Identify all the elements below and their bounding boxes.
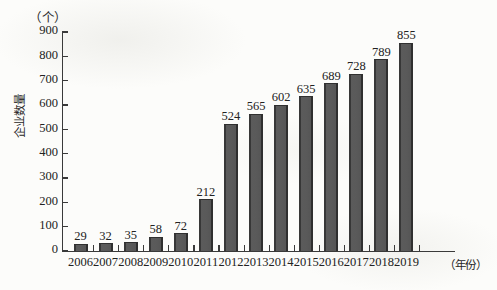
y-tick-300: 300 bbox=[63, 177, 68, 178]
bar-2009: 58 bbox=[149, 237, 163, 251]
x-tick-6 bbox=[218, 245, 219, 251]
bar-2016: 689 bbox=[324, 83, 338, 251]
x-tick-9 bbox=[294, 245, 295, 251]
x-label-2017: 2017 bbox=[344, 256, 369, 269]
bar-value-2014: 602 bbox=[272, 91, 291, 104]
bar-value-2008: 35 bbox=[124, 229, 137, 242]
y-tick-700: 700 bbox=[63, 80, 68, 81]
bar-2014: 602 bbox=[274, 105, 288, 251]
y-axis-title: 企业数量 bbox=[11, 80, 27, 152]
bar-value-2011: 212 bbox=[197, 186, 216, 199]
x-tick-1 bbox=[93, 245, 94, 251]
y-tick-label-600: 600 bbox=[28, 96, 58, 111]
x-tick-2 bbox=[118, 245, 119, 251]
x-label-2012: 2012 bbox=[218, 256, 243, 269]
y-tick-800: 800 bbox=[63, 56, 68, 57]
y-tick-900: 900 bbox=[63, 31, 68, 32]
bar-2007: 32 bbox=[99, 243, 113, 251]
y-tick-500: 500 bbox=[63, 129, 68, 130]
bar-value-2007: 32 bbox=[99, 230, 112, 243]
bar-2018: 789 bbox=[374, 59, 388, 251]
chart-page: （个） 企业数量 9008007006005004003002001000 29… bbox=[0, 0, 497, 290]
x-label-2019: 2019 bbox=[394, 256, 419, 269]
y-tick-label-100: 100 bbox=[28, 218, 58, 233]
plot-area: 9008007006005004003002001000 29323558722… bbox=[62, 31, 455, 252]
bar-2008: 35 bbox=[124, 242, 138, 251]
x-label-2016: 2016 bbox=[319, 256, 344, 269]
y-tick-label-800: 800 bbox=[28, 48, 58, 63]
bar-value-2017: 728 bbox=[347, 60, 366, 73]
y-tick-label-200: 200 bbox=[28, 194, 58, 209]
x-tick-3 bbox=[143, 245, 144, 251]
x-tick-10 bbox=[319, 245, 320, 251]
y-tick-label-700: 700 bbox=[28, 72, 58, 87]
x-label-2007: 2007 bbox=[93, 256, 118, 269]
x-axis-line bbox=[62, 251, 455, 252]
x-label-2013: 2013 bbox=[244, 256, 269, 269]
x-tick-12 bbox=[369, 245, 370, 251]
x-axis-title: （年份） bbox=[444, 256, 486, 272]
y-tick-0: 0 bbox=[63, 250, 68, 251]
y-tick-label-900: 900 bbox=[28, 23, 58, 38]
y-tick-600: 600 bbox=[63, 104, 68, 105]
x-label-2018: 2018 bbox=[369, 256, 394, 269]
x-tick-4 bbox=[168, 245, 169, 251]
x-label-2014: 2014 bbox=[269, 256, 294, 269]
x-tick-13 bbox=[394, 245, 395, 251]
y-tick-400: 400 bbox=[63, 153, 68, 154]
x-label-2011: 2011 bbox=[194, 256, 219, 269]
x-label-2009: 2009 bbox=[143, 256, 168, 269]
y-tick-100: 100 bbox=[63, 226, 68, 227]
bar-2006: 29 bbox=[74, 244, 88, 251]
x-tick-11 bbox=[344, 245, 345, 251]
y-tick-label-400: 400 bbox=[28, 145, 58, 160]
bar-2019: 855 bbox=[399, 43, 413, 251]
y-tick-label-500: 500 bbox=[28, 121, 58, 136]
x-label-2006: 2006 bbox=[68, 256, 93, 269]
bar-value-2010: 72 bbox=[175, 220, 188, 233]
bar-2017: 728 bbox=[349, 74, 363, 251]
bar-2015: 635 bbox=[299, 96, 313, 251]
y-tick-200: 200 bbox=[63, 202, 68, 203]
bar-2013: 565 bbox=[249, 114, 263, 251]
x-label-2008: 2008 bbox=[118, 256, 143, 269]
bar-2011: 212 bbox=[199, 199, 213, 251]
bar-value-2015: 635 bbox=[297, 83, 316, 96]
x-tick-7 bbox=[244, 245, 245, 251]
bar-value-2019: 855 bbox=[397, 29, 416, 42]
y-tick-label-0: 0 bbox=[28, 242, 58, 257]
bar-value-2018: 789 bbox=[372, 46, 391, 59]
bar-2010: 72 bbox=[174, 233, 188, 251]
x-label-2010: 2010 bbox=[168, 256, 193, 269]
bar-value-2012: 524 bbox=[222, 110, 241, 123]
bar-value-2013: 565 bbox=[247, 100, 266, 113]
x-label-2015: 2015 bbox=[294, 256, 319, 269]
x-tick-8 bbox=[269, 245, 270, 251]
y-axis-line bbox=[62, 31, 63, 252]
bar-value-2006: 29 bbox=[74, 230, 87, 243]
bar-value-2009: 58 bbox=[150, 223, 163, 236]
bar-value-2016: 689 bbox=[322, 70, 341, 83]
bar-2012: 524 bbox=[224, 124, 238, 252]
y-tick-label-300: 300 bbox=[28, 169, 58, 184]
x-tick-14 bbox=[419, 245, 420, 251]
x-tick-5 bbox=[193, 245, 194, 251]
